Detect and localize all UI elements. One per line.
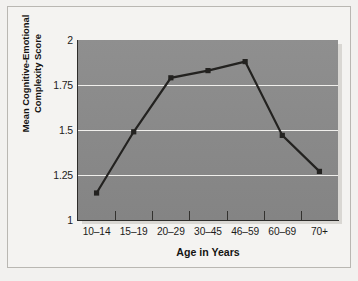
data-point-marker [94, 190, 99, 195]
x-tick-label: 70+ [301, 226, 338, 237]
y-axis-line [77, 40, 78, 221]
y-axis-title: Mean Cognitive-Emotional Complexity Scor… [20, 0, 43, 154]
data-point-marker [280, 133, 285, 138]
x-tick-label: 30–45 [189, 226, 226, 237]
y-tick-label: 2 [67, 34, 73, 46]
y-tick-label: 1 [67, 214, 73, 226]
chart-figure: 11.251.51.752 Mean Cognitive-Emotional C… [0, 0, 358, 281]
x-tick-labels-group: 10–1415–1920–2930–4546–5960–6970+ [78, 226, 338, 237]
x-tick-label: 46–59 [227, 226, 264, 237]
x-tick-label: 20–29 [152, 226, 189, 237]
y-axis-title-line-1: Mean Cognitive-Emotional [20, 0, 32, 154]
y-tick-label: 1.5 [59, 124, 73, 136]
data-point-marker [243, 59, 248, 64]
data-point-marker [168, 75, 173, 80]
y-axis-title-line-2: Complexity Score [31, 0, 43, 154]
y-tick-label: 1.25 [53, 169, 73, 181]
data-point-marker [131, 129, 136, 134]
x-tick-label: 15–19 [115, 226, 152, 237]
series-line-group [78, 40, 338, 220]
x-tick-label: 60–69 [264, 226, 301, 237]
series-line [97, 62, 320, 193]
plot-area [78, 40, 338, 220]
x-axis-title: Age in Years [78, 246, 338, 258]
x-tick-label: 10–14 [78, 226, 115, 237]
y-tick-label: 1.75 [53, 79, 73, 91]
data-point-marker [317, 169, 322, 174]
data-point-marker [205, 68, 210, 73]
y-tick-labels-group: 11.251.51.752 [40, 40, 73, 220]
x-axis-line [78, 220, 339, 221]
